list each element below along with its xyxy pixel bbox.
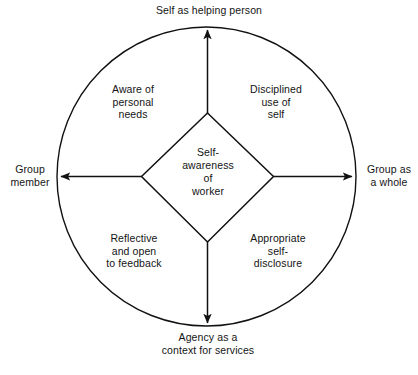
- quadrant-label-lower-right: Appropriate self- disclosure: [226, 232, 330, 270]
- center-label: Self- awareness of worker: [158, 146, 258, 198]
- axis-label-bottom: Agency as a context for services: [118, 331, 298, 356]
- axis-label-top: Self as helping person: [109, 4, 309, 17]
- quadrant-label-upper-left: Aware of personal needs: [85, 83, 181, 121]
- quadrant-label-upper-right: Disciplined use of self: [228, 83, 324, 121]
- quadrant-label-lower-left: Reflective and open to feedback: [82, 232, 186, 270]
- axis-label-right: Group as a whole: [360, 163, 418, 188]
- axis-label-left: Group member: [2, 163, 58, 188]
- diagram-canvas: Self as helping person Group member Grou…: [0, 0, 418, 375]
